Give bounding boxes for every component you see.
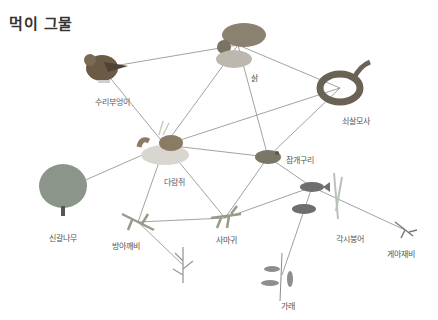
node-label-tree: 신갈나무 xyxy=(49,232,77,243)
snake-icon xyxy=(320,62,370,102)
fish-icon xyxy=(292,173,342,219)
mantis-icon xyxy=(211,206,241,228)
node-label-owl: 수리부엉이 xyxy=(95,96,130,107)
owl-icon xyxy=(84,54,128,83)
node-label-frog: 참개구리 xyxy=(286,154,314,165)
grass-icon xyxy=(173,247,193,283)
node-label-bitterling: 각시붕어 xyxy=(336,233,364,244)
grasshopper-icon xyxy=(122,214,154,230)
edge-grasshopper-grass xyxy=(138,222,183,265)
edge-bitterling-pondweed xyxy=(282,187,312,275)
edge-waterbug-bitterling xyxy=(312,187,405,230)
node-label-chipmunk: 다람쥐 xyxy=(164,176,185,187)
node-label-wildcat: 삵 xyxy=(251,72,258,83)
edge-snake-chipmunk xyxy=(165,88,340,145)
chipmunk-icon xyxy=(139,121,189,165)
food-web-graph xyxy=(0,0,438,320)
node-label-mantis: 사마귀 xyxy=(216,234,237,245)
node-label-pondweed: 가래 xyxy=(281,300,295,311)
node-label-snake: 쇠살모사 xyxy=(342,115,370,126)
edge-frog-mantis xyxy=(225,157,268,218)
water-bug-icon xyxy=(395,222,417,238)
tree-icon xyxy=(39,164,87,216)
node-label-grasshopper: 방아깨비 xyxy=(112,240,140,251)
node-label-waterbug: 게아재비 xyxy=(387,248,415,259)
frog-icon xyxy=(255,150,281,164)
pondweed-icon xyxy=(261,253,293,301)
wildcat-icon xyxy=(216,23,266,68)
